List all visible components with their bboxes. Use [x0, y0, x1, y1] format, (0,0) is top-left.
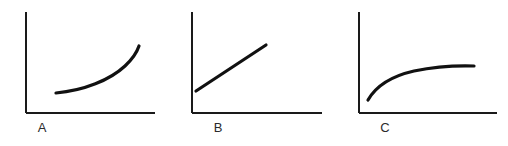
panel-c-label: C	[380, 120, 389, 135]
three-panel-curve-figure: A B C	[0, 0, 508, 146]
panel-a-label: A	[38, 120, 47, 135]
panel-b-label: B	[214, 120, 223, 135]
figure-container: A B C	[0, 0, 508, 146]
figure-background	[0, 0, 508, 146]
